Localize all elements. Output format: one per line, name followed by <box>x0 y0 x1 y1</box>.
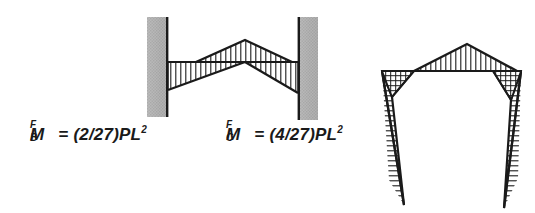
frame-moment-diagram <box>376 38 530 213</box>
moment-c-formula: MFC = (4/27)PL2 <box>226 124 343 145</box>
moment-b-coefficient: (2/27) <box>73 125 119 144</box>
moment-b-superscript: F <box>30 119 36 130</box>
diagram-canvas <box>0 0 535 213</box>
moment-b-symbol: MFB <box>30 125 44 145</box>
moment-b-formula: MFB = (2/27)PL2 <box>30 124 147 145</box>
moment-b-exponent: 2 <box>141 124 147 135</box>
moment-b-subscript: B <box>30 132 37 143</box>
right-fixed-support <box>298 17 318 120</box>
moment-c-equals: = <box>254 125 264 144</box>
left-fixed-support <box>147 17 168 117</box>
moment-c-coefficient: (4/27) <box>269 125 315 144</box>
figure-root: MFB = (2/27)PL2 MFC = (4/27)PL2 <box>0 0 535 213</box>
moment-c-symbol: MFC <box>226 125 240 145</box>
moment-b-equals: = <box>58 125 68 144</box>
moment-c-superscript: F <box>226 119 232 130</box>
moment-c-subscript: C <box>226 132 233 143</box>
moment-c-exponent: 2 <box>337 124 343 135</box>
beam-moment-diagram <box>147 17 318 120</box>
moment-b-term: PL <box>119 125 141 144</box>
moment-c-term: PL <box>315 125 337 144</box>
